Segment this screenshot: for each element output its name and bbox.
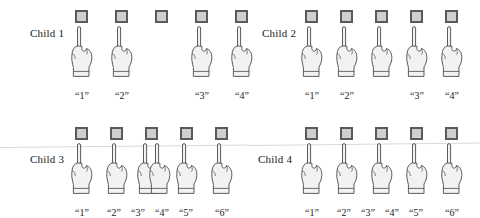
pointing-hand-icon: [402, 141, 432, 201]
child-label-child-3: Child 3: [30, 153, 64, 165]
pointing-hand: [332, 141, 362, 201]
count-label: “2”: [107, 90, 137, 101]
pointing-hand: [172, 141, 202, 201]
object-square: [305, 127, 318, 140]
object-square: [155, 10, 168, 23]
object-square: [340, 10, 353, 23]
count-label: “5”: [171, 207, 201, 218]
object-square: [375, 127, 388, 140]
pointing-hand: [402, 141, 432, 201]
pointing-hand: [297, 24, 327, 84]
pointing-hand-icon: [172, 141, 202, 201]
count-label: “6”: [437, 207, 467, 218]
child-label-child-1: Child 1: [30, 27, 64, 39]
object-square: [195, 10, 208, 23]
object-square: [115, 10, 128, 23]
pointing-hand: [367, 141, 397, 201]
count-label: “3”: [402, 90, 432, 101]
object-square: [375, 10, 388, 23]
child-label-child-4: Child 4: [258, 153, 292, 165]
object-square: [235, 10, 248, 23]
object-square: [410, 10, 423, 23]
pointing-hand-icon: [67, 141, 97, 201]
object-square: [180, 127, 193, 140]
count-label: “6”: [207, 207, 237, 218]
object-square: [445, 10, 458, 23]
object-square: [410, 127, 423, 140]
object-square: [145, 127, 158, 140]
pointing-hand: [332, 24, 362, 84]
pointing-hand-icon: [332, 24, 362, 84]
object-square: [305, 10, 318, 23]
object-square: [340, 127, 353, 140]
pointing-hand: [67, 24, 97, 84]
count-label: “3”: [187, 90, 217, 101]
count-label: “2”: [332, 90, 362, 101]
pointing-hand-icon: [437, 24, 467, 84]
count-label: “5”: [401, 207, 431, 218]
pointing-hand: [67, 141, 97, 201]
object-square: [215, 127, 228, 140]
pointing-hand: [437, 24, 467, 84]
pointing-hand: [145, 141, 175, 201]
pointing-hand-icon: [332, 141, 362, 201]
pointing-hand-icon: [227, 24, 257, 84]
pointing-hand: [367, 24, 397, 84]
pointing-hand: [297, 141, 327, 201]
pointing-hand-icon: [145, 141, 175, 201]
pointing-hand-icon: [187, 24, 217, 84]
pointing-hand-icon: [297, 141, 327, 201]
count-label: “4”: [227, 90, 257, 101]
pointing-hand: [207, 141, 237, 201]
pointing-hand-icon: [207, 141, 237, 201]
count-label: “1”: [297, 90, 327, 101]
pointing-hand: [437, 141, 467, 201]
pointing-hand-icon: [437, 141, 467, 201]
pointing-hand-icon: [67, 24, 97, 84]
object-square: [110, 127, 123, 140]
child-label-child-2: Child 2: [262, 27, 296, 39]
pointing-hand: [227, 24, 257, 84]
count-label: “1”: [67, 90, 97, 101]
count-label: “1”: [67, 207, 97, 218]
counting-figure: Child 1“1”“2”“3”“4”Child 2“1”“2”“3”“4”Ch…: [0, 0, 480, 218]
object-square: [75, 10, 88, 23]
pointing-hand-icon: [102, 141, 132, 201]
pointing-hand: [402, 24, 432, 84]
pointing-hand: [187, 24, 217, 84]
pointing-hand-icon: [367, 141, 397, 201]
object-square: [445, 127, 458, 140]
pointing-hand-icon: [297, 24, 327, 84]
pointing-hand-icon: [402, 24, 432, 84]
count-label: “1”: [297, 207, 327, 218]
pointing-hand-icon: [107, 24, 137, 84]
count-label: “4”: [437, 90, 467, 101]
object-square: [75, 127, 88, 140]
pointing-hand: [107, 24, 137, 84]
pointing-hand: [102, 141, 132, 201]
pointing-hand-icon: [367, 24, 397, 84]
